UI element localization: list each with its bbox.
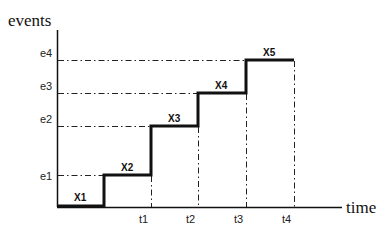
step-label-x5: X5 xyxy=(263,47,276,58)
event-tick-e4: e4 xyxy=(40,47,52,59)
time-tick-t2: t2 xyxy=(186,213,195,225)
event-tick-e2: e2 xyxy=(40,113,52,125)
y-axis-label: events xyxy=(8,11,51,30)
step-label-x1: X1 xyxy=(74,192,87,203)
staircase-diagram: events time e1 e2 e3 e4 t1 t2 t3 t4 X1 X… xyxy=(0,0,389,232)
event-tick-e1: e1 xyxy=(40,170,52,182)
x-axis-label: time xyxy=(346,198,376,217)
time-tick-t1: t1 xyxy=(139,213,148,225)
staircase-line xyxy=(57,60,294,206)
step-label-x3: X3 xyxy=(168,113,181,124)
step-label-x2: X2 xyxy=(121,162,134,173)
step-label-x4: X4 xyxy=(215,80,228,91)
event-tick-e3: e3 xyxy=(40,80,52,92)
time-tick-t4: t4 xyxy=(282,213,291,225)
time-tick-t3: t3 xyxy=(234,213,243,225)
